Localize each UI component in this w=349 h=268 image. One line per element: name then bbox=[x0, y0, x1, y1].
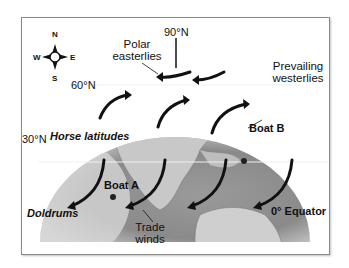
compass-s: S bbox=[52, 73, 57, 85]
label-90n: 90°N bbox=[164, 26, 189, 38]
compass-n: N bbox=[52, 29, 58, 41]
compass-e: E bbox=[70, 52, 75, 64]
boat-a-marker bbox=[110, 194, 116, 200]
label-60n: 60°N bbox=[71, 79, 96, 91]
label-prevailing-westerlies: Prevailingwesterlies bbox=[258, 60, 338, 84]
label-trade-winds: Tradewinds bbox=[130, 221, 170, 245]
arrow-westerly-3 bbox=[212, 104, 246, 133]
label-30n: 30°N bbox=[22, 133, 47, 145]
label-boat-a: Boat A bbox=[104, 179, 139, 191]
arrow-polar-easterly-2 bbox=[196, 72, 224, 80]
label-horse-latitudes: Horse latitudes bbox=[50, 130, 129, 142]
label-doldrums: Doldrums bbox=[27, 207, 78, 219]
boat-b-marker bbox=[241, 158, 247, 164]
label-polar-easterlies: Polareasterlies bbox=[107, 38, 167, 62]
arrow-polar-easterly-1 bbox=[160, 72, 190, 77]
arrow-westerly-2 bbox=[158, 100, 186, 127]
label-equator: 0° Equator bbox=[271, 205, 326, 217]
label-boat-b: Boat B bbox=[249, 122, 284, 134]
arrow-westerly-1 bbox=[100, 95, 128, 118]
compass-w: W bbox=[33, 52, 41, 64]
compass-rose-icon bbox=[42, 44, 68, 70]
